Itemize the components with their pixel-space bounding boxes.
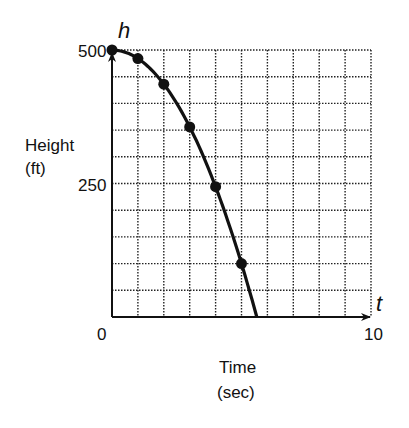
y-axis-variable: h [118,20,130,42]
x-axis-variable: t [376,293,382,315]
grid-lines [112,50,371,317]
data-point [210,181,221,192]
y-tick-250: 250 [78,177,106,194]
x-axis-label-line1: Time [219,359,256,376]
data-point [158,79,169,90]
data-point [236,258,247,269]
height-vs-time-chart [0,0,409,428]
y-axis-label-line1: Height [25,137,74,154]
y-axis-label-line2: (ft) [25,160,46,177]
x-axis-label-line2: (sec) [217,384,255,401]
y-tick-500: 500 [78,43,106,60]
origin-label: 0 [97,326,106,343]
data-point [184,121,195,132]
data-point [107,45,118,56]
data-point [132,53,143,64]
x-tick-10: 10 [364,326,383,343]
